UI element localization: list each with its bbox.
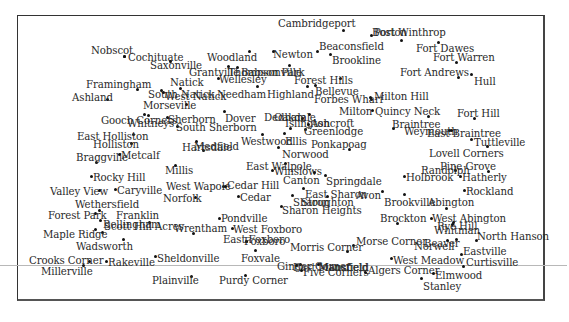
- place-label: Holliston: [93, 139, 139, 150]
- place-label: Nobscot: [91, 45, 133, 56]
- place-marker-icon: [123, 55, 126, 58]
- place-label: Medfield: [194, 141, 239, 152]
- place-label: Brockton: [380, 213, 426, 224]
- place-label: Rakeville: [108, 257, 155, 268]
- place-label: Ellis: [285, 136, 307, 147]
- place-label: Hull: [474, 76, 496, 87]
- place-label: Five Corners: [303, 267, 369, 278]
- place-label: Lovell Corners: [429, 148, 504, 159]
- place-label: Brookline: [332, 55, 381, 66]
- place-label: Sheldonville: [157, 253, 219, 264]
- place-marker-icon: [254, 249, 257, 252]
- place-label: Beaconsfield: [319, 41, 384, 52]
- place-label: Natick: [170, 77, 204, 88]
- place-label: Cedar Hill: [227, 180, 279, 191]
- place-label: Cedar: [240, 192, 271, 203]
- place-label: Millis: [165, 165, 193, 176]
- place-marker-icon: [306, 85, 309, 88]
- place-label: Fort Warren: [433, 52, 495, 63]
- place-label: Quincy Neck: [375, 106, 440, 117]
- place-label: Foxboro: [244, 236, 285, 247]
- place-marker-icon: [400, 39, 403, 42]
- place-label: Canton: [283, 175, 320, 186]
- place-label: Eastville: [463, 246, 507, 257]
- place-label: Millerville: [41, 266, 93, 277]
- place-label: Forest Park: [48, 210, 107, 221]
- place-marker-icon: [364, 271, 367, 274]
- place-label: West Wapole: [166, 181, 231, 192]
- place-label: Whitman: [434, 225, 480, 236]
- place-label: Norwood: [282, 149, 329, 160]
- place-label: Wethersfield: [75, 199, 139, 210]
- place-label: Purdy Corner: [219, 275, 288, 286]
- place-marker-icon: [470, 73, 473, 76]
- place-label: Crooks Corner: [29, 255, 104, 266]
- place-label: Avon: [356, 190, 381, 201]
- place-marker-icon: [147, 114, 150, 117]
- place-label: Newton: [273, 49, 313, 60]
- place-label: Caryville: [117, 185, 162, 196]
- place-label: Fort Hill: [457, 108, 500, 119]
- place-label: Valley View: [50, 186, 108, 197]
- place-label: Scott Hill Acres: [104, 221, 184, 232]
- place-label: Metcalf: [121, 150, 160, 161]
- place-label: Algers Corner: [368, 265, 439, 276]
- place-label: Tuttleville: [474, 137, 525, 148]
- place-label: Forbes Wharf: [314, 94, 383, 105]
- place-marker-icon: [470, 138, 473, 141]
- place-label: Pondville: [221, 213, 267, 224]
- place-label: Maple Ridge: [43, 229, 107, 240]
- place-label: Foxvale: [241, 253, 280, 264]
- place-label: Sharon Heights: [282, 205, 362, 216]
- place-label: South Sherborn: [176, 122, 257, 133]
- place-label: Highland: [267, 89, 314, 100]
- place-label: Milton: [339, 106, 372, 117]
- place-label: Woodland: [207, 52, 257, 63]
- place-marker-icon: [277, 146, 280, 149]
- place-marker-icon: [313, 171, 316, 174]
- place-label: Needham: [217, 89, 266, 100]
- place-label: Port Winthrop: [374, 27, 446, 38]
- place-marker-icon: [381, 190, 384, 193]
- place-marker-icon: [256, 85, 259, 88]
- place-marker-icon: [462, 265, 465, 268]
- place-label: Curtisville: [466, 257, 518, 268]
- place-label: Morseville: [143, 100, 196, 111]
- place-label: Rocky Hill: [93, 172, 145, 183]
- place-marker-icon: [342, 29, 345, 32]
- place-label: North Hanson: [477, 231, 549, 242]
- place-marker-icon: [403, 193, 406, 196]
- place-label: Plainville: [152, 275, 199, 286]
- place-label: Wellesley: [219, 74, 267, 85]
- place-label: Greenlodge: [304, 126, 363, 137]
- place-marker-icon: [283, 132, 286, 135]
- place-label: Morris Corner: [290, 242, 363, 253]
- place-marker-icon: [369, 96, 372, 99]
- place-label: Framingham: [86, 79, 151, 90]
- place-label: Stanley: [423, 281, 461, 292]
- place-label: Springdale: [326, 176, 382, 187]
- place-label: Fort Andrews: [400, 67, 469, 78]
- place-label: Wrentham: [174, 223, 227, 234]
- place-label: Norfolk: [163, 193, 202, 204]
- place-label: Wadsworth: [76, 241, 133, 252]
- place-label: Elmwood: [435, 270, 482, 281]
- place-label: Cambridgeport: [278, 18, 356, 29]
- place-marker-icon: [420, 277, 423, 280]
- place-label: Holbrook: [406, 172, 453, 183]
- place-label: Milton Hill: [374, 91, 429, 102]
- place-label: Forest Hills: [294, 75, 353, 86]
- place-label: Ashland: [72, 92, 113, 103]
- place-marker-icon: [99, 219, 102, 222]
- place-label: Rockland: [466, 186, 513, 197]
- place-label: Abington: [428, 197, 474, 208]
- place-label: Beaver: [424, 238, 460, 249]
- place-label: Hatherly: [462, 172, 507, 183]
